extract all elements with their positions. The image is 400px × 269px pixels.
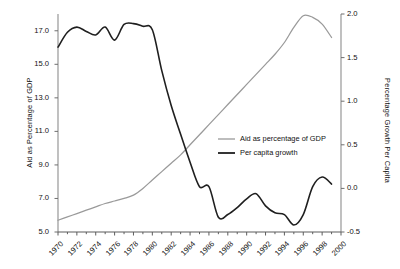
left-tick-label: 17.0 bbox=[19, 26, 49, 35]
series-line-0 bbox=[58, 15, 332, 220]
chart-figure: Aid as Percentage of GDP Percentage Grow… bbox=[0, 0, 400, 269]
left-tick-label: 5.0 bbox=[19, 227, 49, 236]
right-tick-label: 1.5 bbox=[347, 53, 377, 62]
data-series-group bbox=[58, 15, 332, 225]
right-tick-label: 1.0 bbox=[347, 96, 377, 105]
right-tick-label: 0.5 bbox=[347, 140, 377, 149]
right-tick-label: 2.0 bbox=[347, 9, 377, 18]
left-tick-label: 7.0 bbox=[19, 193, 49, 202]
chart-axes bbox=[58, 14, 341, 232]
tick-marks bbox=[55, 14, 345, 236]
right-tick-label: -0.5 bbox=[347, 227, 377, 236]
left-tick-label: 11.0 bbox=[19, 126, 49, 135]
legend-label-1: Per capita growth bbox=[240, 148, 298, 157]
legend-label-0: Aid as percentage of GDP bbox=[240, 134, 326, 143]
left-tick-label: 9.0 bbox=[19, 160, 49, 169]
right-tick-label: 0.0 bbox=[347, 183, 377, 192]
series-line-1 bbox=[58, 23, 332, 225]
left-tick-label: 13.0 bbox=[19, 93, 49, 102]
chart-canvas bbox=[0, 0, 400, 269]
left-tick-label: 15.0 bbox=[19, 59, 49, 68]
legend-swatches bbox=[218, 139, 235, 153]
right-axis-title: Percentage Growth Per Capita bbox=[383, 51, 392, 211]
